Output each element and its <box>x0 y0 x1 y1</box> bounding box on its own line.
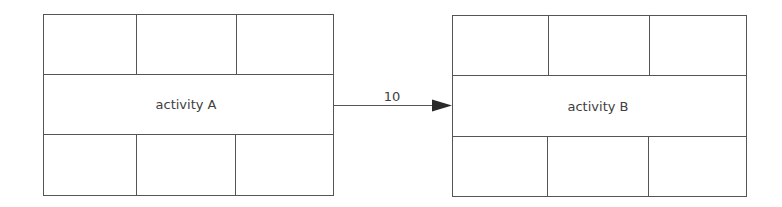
edge-label: 10 <box>384 89 401 104</box>
node-activity-a: activity A <box>44 15 334 196</box>
node-b-label: activity B <box>568 99 629 114</box>
diagram-canvas: activity A 10 activity B <box>0 0 782 207</box>
node-activity-b: activity B <box>453 16 747 197</box>
edge-a-to-b: 10 <box>334 89 453 112</box>
node-a-label: activity A <box>156 97 217 112</box>
arrowhead-icon <box>432 100 452 112</box>
